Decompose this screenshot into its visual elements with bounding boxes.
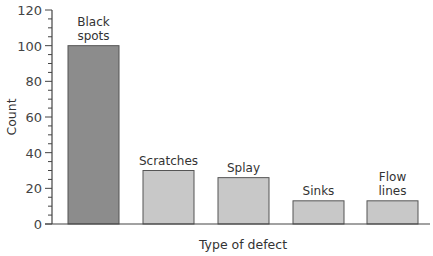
bar-label: Splay	[227, 161, 260, 175]
bar-label: lines	[379, 184, 407, 198]
bar-label: Scratches	[139, 154, 198, 168]
y-axis: 020406080100120	[17, 3, 52, 232]
bar-splay	[218, 178, 269, 224]
y-tick-label: 120	[17, 3, 42, 18]
bar-label: Sinks	[303, 184, 335, 198]
bar-scratches	[143, 171, 194, 225]
bar-label: Black	[77, 15, 110, 29]
y-tick-label: 100	[17, 39, 42, 54]
bar-black-spots	[68, 46, 119, 224]
y-tick-label: 80	[25, 74, 42, 89]
pareto-bar-chart: 020406080100120 BlackspotsScratchesSplay…	[0, 0, 433, 256]
y-tick-label: 40	[25, 146, 42, 161]
y-tick-label: 60	[25, 110, 42, 125]
y-tick-label: 0	[34, 217, 42, 232]
bar-label: Flow	[379, 170, 407, 184]
bar-label: spots	[77, 29, 109, 43]
y-tick-label: 20	[25, 181, 42, 196]
y-axis-title: Count	[4, 98, 19, 135]
x-axis-title: Type of defect	[198, 237, 287, 252]
bar-sinks	[293, 201, 344, 224]
bars: BlackspotsScratchesSplaySinksFlowlines	[68, 15, 418, 224]
bar-flow-lines	[367, 201, 418, 224]
